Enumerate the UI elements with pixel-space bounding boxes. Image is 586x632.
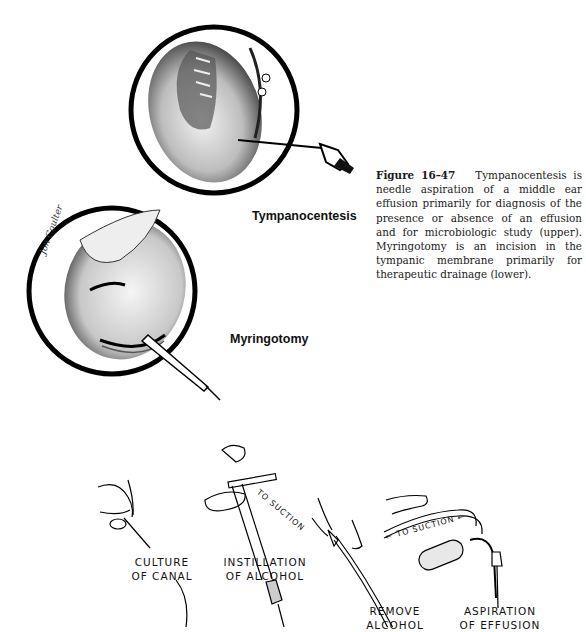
step-label-line2: ALCOHOL: [360, 618, 430, 632]
step-aspiration-of-effusion: ASPIRATION OF EFFUSION: [455, 604, 545, 632]
figure-caption: Figure 16–47 Tympanocentesis is needle a…: [376, 168, 582, 282]
instillation-syringe-illustration: [205, 445, 284, 627]
aspiration-illustration: [384, 496, 502, 609]
step-instillation-of-alcohol: INSTILLATION OF ALCOHOL: [215, 555, 315, 583]
tympanocentesis-illustration: [130, 27, 354, 198]
culture-of-canal-illustration: [98, 480, 187, 627]
figure-caption-text: Tympanocentesis is needle aspiration of …: [376, 169, 582, 280]
step-label-line1: REMOVE: [360, 604, 430, 618]
step-remove-alcohol: REMOVE ALCOHOL: [360, 604, 430, 632]
step-label-line1: INSTILLATION: [215, 555, 315, 569]
step-label-line2: OF EFFUSION: [455, 618, 545, 632]
step-label-line2: OF ALCOHOL: [215, 569, 315, 583]
step-label-line2: OF CANAL: [122, 569, 202, 583]
myringotomy-label: Myringotomy: [230, 332, 308, 346]
step-label-line1: CULTURE: [122, 555, 202, 569]
step-label-line1: ASPIRATION: [455, 604, 545, 618]
step-culture-of-canal: CULTURE OF CANAL: [122, 555, 202, 583]
tympanocentesis-label: Tympanocentesis: [252, 209, 357, 223]
myringotomy-illustration: Jon Coulter: [29, 203, 220, 400]
figure-number: Figure 16–47: [376, 169, 455, 181]
